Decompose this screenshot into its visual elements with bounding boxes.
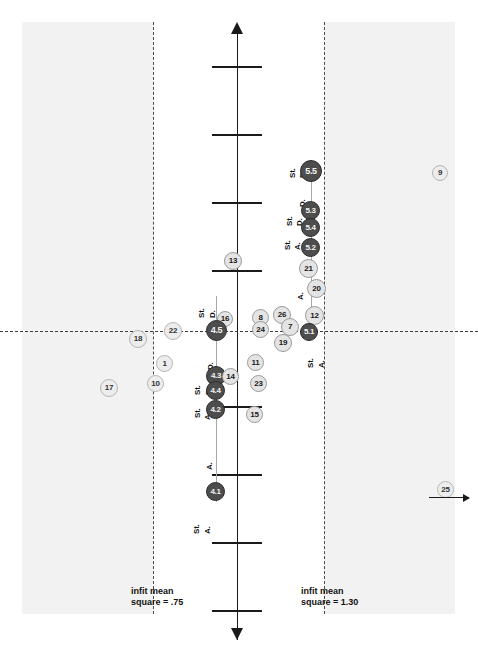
- item-bubble-15[interactable]: 15: [246, 406, 263, 423]
- strand-label-a-2: A.: [296, 292, 305, 300]
- item-bubble-24[interactable]: 24: [252, 321, 269, 338]
- upper-control-legend-line1: infit mean: [301, 586, 358, 597]
- item-bubble-18[interactable]: 18: [129, 330, 147, 348]
- item-bubble-13[interactable]: 13: [224, 252, 242, 270]
- strand-label-st-5: St.: [197, 308, 206, 318]
- strand-label-st-8: St.: [192, 524, 201, 534]
- axis-tick: [212, 134, 262, 136]
- item-bubble-4-2[interactable]: 4.2: [206, 400, 225, 419]
- horizontal-axis: [0, 331, 478, 332]
- axis-arrow-down: [231, 628, 243, 640]
- strand-label-st-6: St.: [193, 385, 202, 395]
- item-bubble-23[interactable]: 23: [250, 375, 267, 392]
- upper-control-legend-line2: square = 1.30: [301, 597, 358, 608]
- lower-control-legend-line2: square = .75: [131, 597, 183, 608]
- item-bubble-21[interactable]: 21: [299, 259, 318, 278]
- lower-control-legend-line1: infit mean: [131, 586, 183, 597]
- item-bubble-25[interactable]: 25: [437, 481, 454, 498]
- item-bubble-5-2[interactable]: 5.2: [301, 238, 320, 257]
- lower-control-line: [153, 22, 154, 614]
- underfit-shaded-band: [22, 22, 153, 614]
- item-bubble-17[interactable]: 17: [100, 379, 118, 397]
- strand-label-st-3: St.: [283, 240, 292, 250]
- item-bubble-11[interactable]: 11: [247, 354, 264, 371]
- strand-label-st-4: St.: [306, 358, 315, 368]
- axis-tick: [212, 542, 262, 544]
- item-bubble-4-5[interactable]: 4.5: [206, 320, 227, 341]
- strand-label-a-5: A.: [205, 462, 214, 470]
- strand-label-st-7: St.: [193, 408, 202, 418]
- vertical-axis: [237, 30, 238, 640]
- item-bubble-10[interactable]: 10: [147, 375, 164, 392]
- item-fit-map: St. D. 5.5 D. St. D. 5.3 5.4 St. A. 5.2 …: [0, 0, 478, 669]
- strand-label-d-4: D.: [208, 310, 217, 318]
- upper-control-line: [324, 22, 325, 614]
- item-bubble-5-1[interactable]: 5.1: [300, 323, 318, 341]
- lower-control-legend: infit mean square = .75: [131, 586, 183, 609]
- overfit-shaded-band: [324, 22, 455, 614]
- strand-label-a-3: A.: [317, 360, 326, 368]
- strand-label-st-2: St.: [285, 216, 294, 226]
- axis-tick: [212, 270, 262, 272]
- item-bubble-1[interactable]: 1: [156, 355, 173, 372]
- offscale-arrow-icon: [429, 497, 469, 498]
- axis-tick: [212, 66, 262, 68]
- axis-tick: [212, 202, 262, 204]
- axis-tick: [212, 474, 262, 476]
- axis-tick: [212, 610, 262, 612]
- item-bubble-22[interactable]: 22: [164, 322, 182, 340]
- item-bubble-5-4[interactable]: 5.4: [301, 218, 320, 237]
- item-bubble-4-4[interactable]: 4.4: [206, 381, 225, 400]
- strand-label-st: St.: [288, 168, 297, 178]
- item-bubble-19[interactable]: 19: [274, 334, 292, 352]
- item-bubble-9[interactable]: 9: [432, 165, 448, 181]
- item-bubble-4-1[interactable]: 4.1: [206, 482, 225, 501]
- item-bubble-14[interactable]: 14: [222, 368, 239, 385]
- item-bubble-20[interactable]: 20: [307, 279, 326, 298]
- upper-control-legend: infit mean square = 1.30: [301, 586, 358, 609]
- item-bubble-5-5[interactable]: 5.5: [300, 160, 322, 182]
- strand-label-a-6: A.: [203, 526, 212, 534]
